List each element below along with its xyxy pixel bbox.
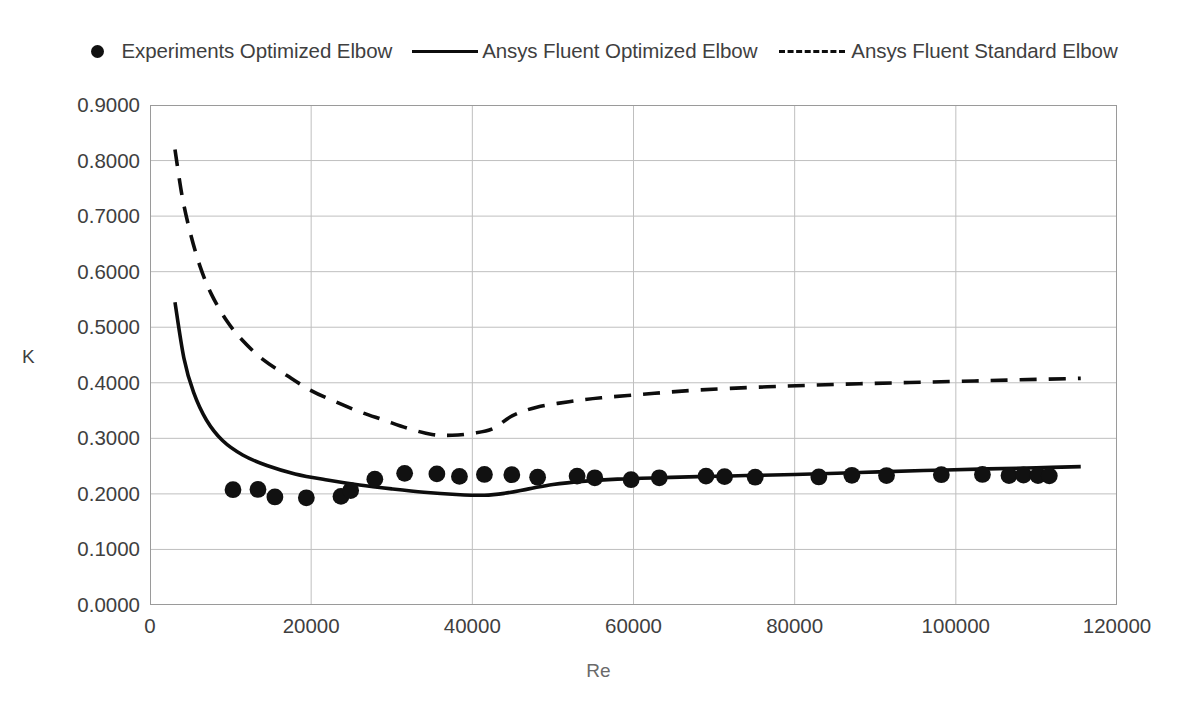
data-point-marker	[810, 469, 827, 486]
y-axis-tick-label: 0.2000	[30, 482, 140, 506]
y-axis-title: K	[22, 346, 35, 368]
y-axis-tick-labels: 0.90000.80000.70000.60000.50000.40000.30…	[22, 105, 140, 605]
data-point-marker	[586, 469, 603, 486]
data-point-marker	[396, 465, 413, 482]
x-axis-tick-label: 40000	[444, 614, 501, 638]
y-axis-tick-label: 0.6000	[30, 260, 140, 284]
data-point-marker	[623, 471, 640, 488]
x-axis-tick-label: 100000	[922, 614, 990, 638]
data-point-marker	[569, 468, 586, 485]
y-axis-tick-label: 0.8000	[30, 149, 140, 173]
y-axis-tick-label: 0.4000	[30, 371, 140, 395]
dashed-line-icon	[773, 40, 851, 62]
data-point-marker	[933, 466, 950, 483]
data-point-marker	[428, 465, 445, 482]
x-axis-tick-labels: 020000400006000080000100000120000	[0, 614, 1197, 646]
legend-label-fluent-optimized: Ansys Fluent Optimized Elbow	[482, 39, 757, 63]
y-axis-tick-label: 0.7000	[30, 204, 140, 228]
data-point-marker	[1001, 467, 1018, 484]
data-point-marker	[747, 469, 764, 486]
data-point-marker	[366, 471, 383, 488]
data-point-marker	[651, 469, 668, 486]
x-axis-tick-label: 60000	[605, 614, 662, 638]
legend-label-experiments: Experiments Optimized Elbow	[121, 39, 392, 63]
x-axis-tick-label: 80000	[766, 614, 823, 638]
y-axis-tick-label: 0.3000	[30, 426, 140, 450]
data-point-marker	[529, 469, 546, 486]
data-point-marker	[298, 489, 315, 506]
legend-label-fluent-standard: Ansys Fluent Standard Elbow	[851, 39, 1117, 63]
data-point-marker	[342, 482, 359, 499]
data-point-marker	[225, 481, 242, 498]
legend-item-fluent-optimized: Ansys Fluent Optimized Elbow	[408, 39, 757, 63]
chart-legend: Experiments Optimized Elbow Ansys Fluent…	[0, 34, 1197, 68]
x-axis-tick-label: 20000	[283, 614, 340, 638]
gridlines	[150, 105, 1117, 605]
data-point-marker	[250, 481, 267, 498]
legend-item-fluent-standard: Ansys Fluent Standard Elbow	[773, 39, 1117, 63]
data-point-marker	[843, 467, 860, 484]
data-point-marker	[476, 466, 493, 483]
data-point-marker	[1015, 467, 1032, 484]
chart-svg	[150, 105, 1117, 605]
data-point-marker	[451, 468, 468, 485]
x-axis-tick-label: 120000	[1083, 614, 1151, 638]
data-point-marker	[1041, 467, 1058, 484]
data-point-marker	[878, 467, 895, 484]
y-axis-tick-label: 0.1000	[30, 537, 140, 561]
x-axis-title: Re	[0, 660, 1197, 682]
y-axis-tick-label: 0.5000	[30, 315, 140, 339]
solid-line-icon	[408, 40, 482, 62]
data-point-marker	[698, 468, 715, 485]
data-point-marker	[503, 466, 520, 483]
legend-item-experiments: Experiments Optimized Elbow	[79, 39, 392, 63]
y-axis-tick-label: 0.9000	[30, 93, 140, 117]
data-point-marker	[974, 466, 991, 483]
scatter-marker-icon	[79, 40, 121, 62]
plot-area	[150, 105, 1117, 605]
data-point-marker	[716, 468, 733, 485]
data-point-marker	[267, 489, 284, 506]
x-axis-tick-label: 0	[144, 614, 155, 638]
